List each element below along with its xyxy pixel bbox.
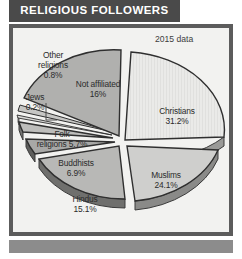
page-title: RELIGIOUS FOLLOWERS xyxy=(9,4,180,16)
label-not-affiliated: Not affiliated 16% xyxy=(59,79,137,99)
label-other-religions: Other religions 0.8% xyxy=(21,50,85,81)
label-hindus: Hindus 15.1% xyxy=(55,194,115,214)
label-christians: Christians 31.2% xyxy=(141,106,213,126)
label-folk-religions: Folk religions 5.7% xyxy=(19,129,105,149)
data-year-note: 2015 data xyxy=(155,34,193,44)
infographic-root: RELIGIOUS FOLLOWERS xyxy=(0,0,242,259)
label-buddhists: Buddhists 6.9% xyxy=(41,158,111,178)
slice-top-christians xyxy=(125,52,224,140)
label-muslims: Muslims 24.1% xyxy=(133,170,199,190)
title-bar: RELIGIOUS FOLLOWERS xyxy=(9,0,180,22)
chart-panel: Other religions 0.8% Jews 0.2% Folk reli… xyxy=(13,28,229,232)
footer-band xyxy=(9,240,233,253)
chart-frame: Other religions 0.8% Jews 0.2% Folk reli… xyxy=(9,24,233,236)
label-jews: Jews 0.2% xyxy=(15,92,55,112)
